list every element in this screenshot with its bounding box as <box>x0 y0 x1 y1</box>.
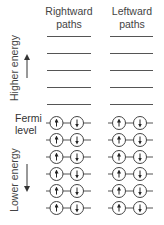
spin-down-electron-icon <box>71 202 84 215</box>
spin-down-electron-icon <box>71 117 84 130</box>
spin-down-electron-icon <box>71 151 84 164</box>
spin-down-electron-icon <box>134 117 147 130</box>
filled-level <box>46 168 91 181</box>
filled-level <box>108 117 153 130</box>
spin-up-electron-icon <box>113 202 126 215</box>
filled-level <box>46 202 91 215</box>
filled-level <box>108 134 153 147</box>
filled-level <box>46 185 91 198</box>
spin-up-electron-icon <box>50 168 63 181</box>
spin-down-electron-icon <box>71 185 84 198</box>
spin-up-electron-icon <box>50 134 63 147</box>
filled-level <box>108 151 153 164</box>
spin-up-electron-icon <box>50 117 63 130</box>
spin-down-electron-icon <box>134 168 147 181</box>
empty-levels-leftward <box>110 37 153 105</box>
filled-level <box>46 117 91 130</box>
spin-down-electron-icon <box>134 151 147 164</box>
empty-levels-rightward <box>47 37 91 105</box>
energy-level-diagram <box>0 0 164 225</box>
spin-up-electron-icon <box>113 168 126 181</box>
filled-level <box>46 134 91 147</box>
spin-down-electron-icon <box>134 185 147 198</box>
spin-up-electron-icon <box>50 185 63 198</box>
filled-level <box>46 151 91 164</box>
spin-up-electron-icon <box>113 151 126 164</box>
spin-down-electron-icon <box>134 134 147 147</box>
spin-up-electron-icon <box>113 117 126 130</box>
filled-level <box>108 202 153 215</box>
spin-up-electron-icon <box>113 185 126 198</box>
filled-levels <box>46 117 153 215</box>
spin-down-electron-icon <box>71 134 84 147</box>
filled-level <box>108 168 153 181</box>
filled-level <box>108 185 153 198</box>
spin-up-electron-icon <box>113 134 126 147</box>
spin-down-electron-icon <box>134 202 147 215</box>
spin-up-electron-icon <box>50 202 63 215</box>
spin-up-electron-icon <box>50 151 63 164</box>
spin-down-electron-icon <box>71 168 84 181</box>
